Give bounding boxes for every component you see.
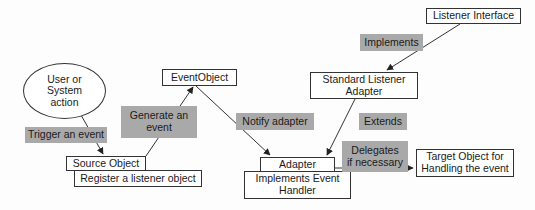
source-object-node: Source Object	[66, 156, 146, 171]
generate-event-label: Generate an event	[121, 106, 197, 138]
user-system-action-node: User or System action	[23, 63, 106, 119]
trigger-event-label: Trigger an event	[25, 127, 107, 143]
delegates-label: Delegates if necessary	[342, 141, 408, 172]
target-object-node: Target Object for Handling the event	[416, 149, 514, 177]
implements-event-handler-node: Implements Event Handler	[244, 171, 351, 199]
listener-interface-node: Listener Interface	[426, 8, 521, 24]
event-handling-diagram: User or System action Trigger an event S…	[0, 0, 535, 210]
standard-listener-adapter-node: Standard Listener Adapter	[310, 72, 418, 99]
adapter-node: Adapter	[260, 157, 335, 172]
notify-adapter-label: Notify adapter	[236, 113, 314, 130]
event-object-node: EventObject	[162, 69, 237, 86]
extends-label: Extends	[359, 113, 407, 130]
implements-label: Implements	[360, 34, 423, 51]
register-listener-node: Register a listener object	[74, 170, 202, 187]
